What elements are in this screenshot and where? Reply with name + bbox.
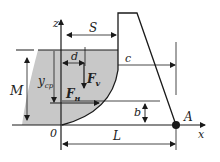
dam-outline	[118, 13, 176, 125]
s-label: S	[89, 21, 97, 35]
b-label: b	[134, 106, 141, 119]
origin-label: 0	[50, 127, 57, 140]
z-label: z	[52, 17, 59, 30]
d-label: d	[71, 50, 78, 63]
m-label: M	[9, 83, 24, 98]
point-a	[172, 121, 180, 129]
a-label: A	[183, 110, 193, 124]
l-label: L	[112, 129, 121, 143]
x-label: x	[198, 128, 205, 141]
c-label: c	[125, 52, 131, 65]
dam-diagram: z x S d c M ycp Fv Fн b 0 L A	[0, 0, 220, 162]
